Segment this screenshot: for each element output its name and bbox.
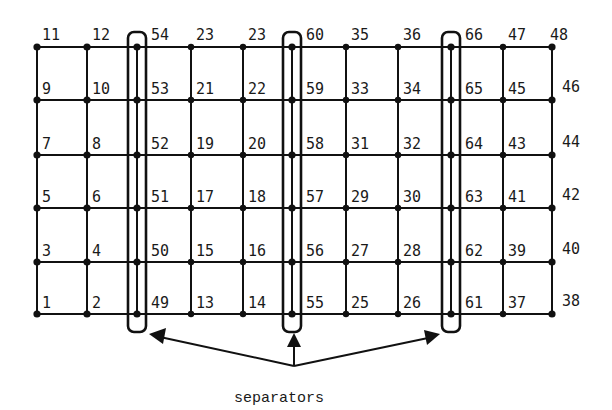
node-label: 64 [465, 135, 483, 153]
grid-node [240, 259, 246, 265]
node-label: 34 [403, 80, 421, 98]
arrow-shaft-left [160, 337, 294, 366]
grid-node [548, 258, 555, 265]
node-label: 40 [562, 240, 580, 258]
node-label: 32 [403, 135, 421, 153]
grid-node [548, 204, 555, 211]
grid-node [288, 204, 295, 211]
grid-node [288, 258, 295, 265]
node-label: 51 [151, 188, 169, 206]
grid-node [447, 310, 454, 317]
node-label: 46 [562, 78, 580, 96]
grid-node [33, 258, 40, 265]
node-label: 17 [196, 188, 214, 206]
node-label: 23 [196, 26, 214, 44]
grid-node [83, 204, 90, 211]
grid-node [343, 152, 349, 158]
arrowhead-right-icon [424, 330, 440, 345]
node-label: 35 [351, 26, 369, 44]
node-label: 52 [151, 135, 169, 153]
grid-node [33, 310, 40, 317]
separator-grid-diagram: 1112542323603536664748910532122593334654… [0, 0, 612, 410]
grid-node [447, 258, 454, 265]
grid-node [288, 151, 295, 158]
node-label: 28 [403, 242, 421, 260]
node-label: 63 [465, 188, 483, 206]
grid-node [395, 44, 401, 50]
grid-node [33, 96, 40, 103]
grid-node [500, 259, 506, 265]
node-label: 38 [562, 292, 580, 310]
node-label: 66 [465, 26, 483, 44]
node-label: 59 [306, 80, 324, 98]
grid-node [133, 310, 140, 317]
node-label: 12 [92, 26, 110, 44]
node-label: 39 [508, 242, 526, 260]
node-label: 11 [42, 26, 60, 44]
grid-node [83, 151, 90, 158]
grid-node [33, 151, 40, 158]
grid-node [343, 97, 349, 103]
grid-node [133, 151, 140, 158]
grid-node [133, 258, 140, 265]
grid-node [343, 205, 349, 211]
grid-node [500, 205, 506, 211]
grid-node [240, 152, 246, 158]
node-label: 29 [351, 188, 369, 206]
node-label: 27 [351, 242, 369, 260]
node-label: 20 [248, 135, 266, 153]
grid-node [447, 204, 454, 211]
grid-node [240, 205, 246, 211]
node-label: 21 [196, 80, 214, 98]
grid-node [395, 205, 401, 211]
grid-node [240, 44, 246, 50]
grid-node [447, 151, 454, 158]
grid-node [240, 311, 246, 317]
grid-node [83, 43, 90, 50]
node-label: 19 [196, 135, 214, 153]
node-label: 56 [306, 242, 324, 260]
grid-node [288, 310, 295, 317]
grid-node [83, 96, 90, 103]
node-label: 33 [351, 80, 369, 98]
node-label: 47 [508, 26, 526, 44]
node-label: 49 [151, 294, 169, 312]
separators-caption: separators [234, 390, 324, 407]
grid-node [188, 152, 194, 158]
separator-arrows [149, 328, 440, 366]
grid-node [188, 97, 194, 103]
node-label: 16 [248, 242, 266, 260]
node-label: 45 [508, 80, 526, 98]
separator-boxes [128, 32, 460, 332]
grid-node [83, 258, 90, 265]
node-label: 30 [403, 188, 421, 206]
node-label: 14 [248, 294, 266, 312]
grid-node [500, 44, 506, 50]
grid-node [548, 310, 555, 317]
node-label: 5 [42, 188, 51, 206]
grid-node [548, 96, 555, 103]
grid-node [395, 152, 401, 158]
node-label: 22 [248, 80, 266, 98]
node-label: 48 [550, 26, 568, 44]
grid-node [133, 204, 140, 211]
grid-node [288, 43, 295, 50]
grid-node [447, 43, 454, 50]
grid-node [33, 204, 40, 211]
node-labels: 1112542323603536664748910532122593334654… [42, 26, 580, 312]
grid-node [188, 259, 194, 265]
node-label: 43 [508, 135, 526, 153]
node-label: 44 [562, 133, 580, 151]
node-label: 8 [92, 135, 101, 153]
node-label: 13 [196, 294, 214, 312]
node-label: 1 [42, 294, 51, 312]
grid-node [343, 44, 349, 50]
node-label: 62 [465, 242, 483, 260]
grid-node [395, 259, 401, 265]
node-label: 23 [248, 26, 266, 44]
grid-node [343, 259, 349, 265]
grid-node [447, 96, 454, 103]
node-label: 6 [92, 188, 101, 206]
node-label: 4 [92, 242, 101, 260]
node-label: 10 [92, 80, 110, 98]
